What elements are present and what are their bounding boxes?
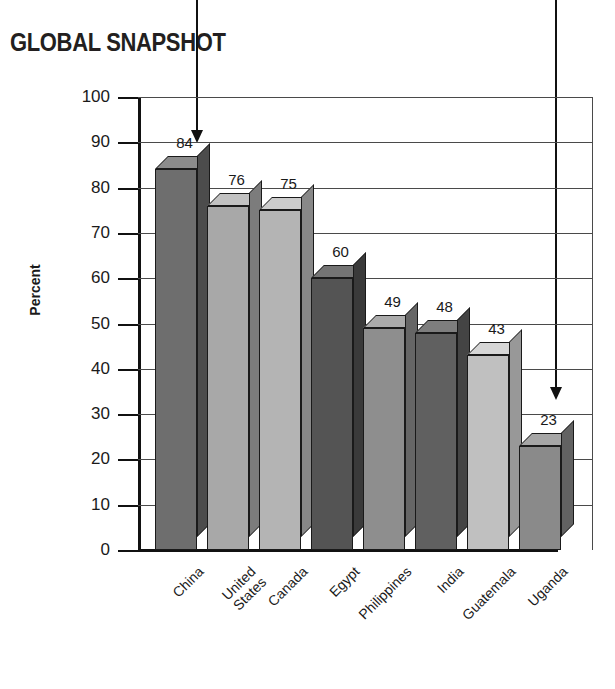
bar-value-label: 23: [521, 411, 576, 428]
bar-front-face: [207, 206, 249, 550]
y-tick-mark: [118, 459, 138, 461]
bar-uganda: [519, 433, 574, 550]
y-tick-mark: [118, 505, 138, 507]
bar-united-states: [207, 193, 262, 550]
y-tick-label: 90: [58, 133, 110, 150]
x-category-label-uganda: Uganda: [511, 564, 571, 624]
bar-value-label: 48: [417, 298, 472, 315]
y-tick-label: 30: [58, 405, 110, 422]
bar-canada: [259, 197, 314, 550]
bar-india: [415, 320, 470, 550]
y-tick-mark: [118, 188, 138, 190]
y-tick-label: 70: [58, 224, 110, 241]
bar-china: [155, 156, 210, 550]
x-category-label-guatemala: Guatemala: [459, 564, 519, 624]
bar-front-face: [259, 210, 301, 550]
bar-front-face: [311, 278, 353, 550]
bar-egypt: [311, 265, 366, 550]
bar-side-face: [561, 420, 574, 537]
bar-front-face: [415, 333, 457, 550]
y-tick-label: 80: [58, 179, 110, 196]
y-tick-mark: [118, 324, 138, 326]
y-tick-mark: [118, 369, 138, 371]
y-tick-label: 100: [58, 88, 110, 105]
bar-front-face: [155, 169, 197, 550]
bar-front-face: [363, 328, 405, 550]
bar-value-label: 84: [157, 134, 212, 151]
x-category-label-china: China: [147, 564, 207, 624]
y-tick-label: 60: [58, 269, 110, 286]
y-tick-label: 40: [58, 360, 110, 377]
page-title: GLOBAL SNAPSHOT: [10, 28, 226, 57]
gridline: [138, 97, 593, 98]
bar-value-label: 49: [365, 293, 420, 310]
bar-value-label: 75: [261, 175, 316, 192]
y-tick-mark: [118, 414, 138, 416]
x-category-line: Guatemala: [459, 564, 519, 624]
bar-value-label: 43: [469, 320, 524, 337]
y-tick-mark: [118, 550, 138, 552]
x-category-line: Philippines: [355, 564, 415, 624]
bar-value-label: 60: [313, 243, 368, 260]
y-tick-label: 50: [58, 315, 110, 332]
x-category-line: China: [147, 564, 207, 624]
y-tick-mark: [118, 233, 138, 235]
y-tick-label: 20: [58, 450, 110, 467]
y-tick-mark: [118, 278, 138, 280]
x-category-line: India: [407, 564, 467, 624]
bar-front-face: [519, 446, 561, 550]
bar-value-label: 76: [209, 171, 264, 188]
y-axis-label: Percent: [27, 245, 43, 335]
y-tick-mark: [118, 142, 138, 144]
x-category-label-philippines: Philippines: [355, 564, 415, 624]
bar-guatemala: [467, 342, 522, 550]
x-category-label-egypt: Egypt: [303, 564, 363, 624]
y-tick-label: 10: [58, 496, 110, 513]
chart-page: { "title": "GLOBAL SNAPSHOT", "annotatio…: [0, 0, 615, 689]
x-category-label-india: India: [407, 564, 467, 624]
y-tick-mark: [118, 97, 138, 99]
bar-front-face: [467, 355, 509, 550]
x-category-line: Egypt: [303, 564, 363, 624]
x-category-label-united-states: UnitedStates: [199, 564, 269, 634]
y-tick-label: 0: [58, 541, 110, 558]
bar-philippines: [363, 315, 418, 550]
x-category-line: Uganda: [511, 564, 571, 624]
